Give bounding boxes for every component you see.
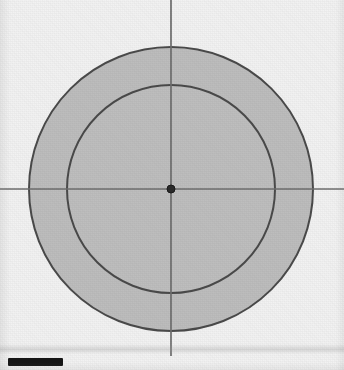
caption-strip xyxy=(0,354,344,370)
caption-marker-bar xyxy=(8,358,63,366)
figure-root xyxy=(0,0,344,370)
concentric-circles-diagram xyxy=(0,0,344,370)
center-dot xyxy=(167,185,175,193)
